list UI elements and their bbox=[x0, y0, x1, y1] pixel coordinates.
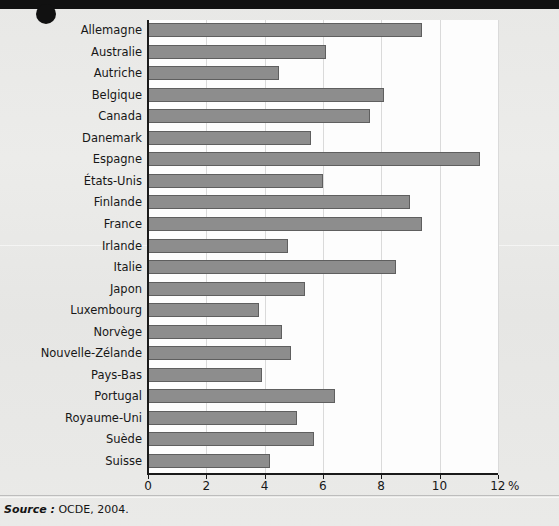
bar-norv-ge bbox=[148, 325, 282, 339]
bar-rect bbox=[148, 131, 311, 145]
category-label-italie: Italie bbox=[5, 261, 147, 274]
category-label-irlande: Irlande bbox=[5, 240, 147, 253]
bar-luxembourg bbox=[148, 303, 259, 317]
bar-rect bbox=[148, 368, 262, 382]
bar-suisse bbox=[148, 454, 270, 468]
bar-rect bbox=[148, 174, 323, 188]
bar-rect bbox=[148, 282, 305, 296]
bar-rect bbox=[148, 195, 410, 209]
category-label-finlande: Finlande bbox=[5, 196, 147, 209]
tick-label-8: 8 bbox=[369, 479, 393, 493]
gridline-12 bbox=[498, 20, 499, 473]
bar-finlande bbox=[148, 195, 410, 209]
source-note: Source : OCDE, 2004. bbox=[4, 503, 129, 516]
category-label-japon: Japon bbox=[5, 283, 147, 296]
bar-italie bbox=[148, 260, 396, 274]
bar-france bbox=[148, 217, 422, 231]
tick-label-0: 0 bbox=[136, 479, 160, 493]
category-label-luxembourg: Luxembourg bbox=[5, 304, 147, 317]
bar-rect bbox=[148, 217, 422, 231]
category-label-portugal: Portugal bbox=[5, 390, 147, 403]
bar-rect bbox=[148, 88, 384, 102]
x-axis-unit-label: % bbox=[508, 479, 519, 493]
tick-label-10: 10 bbox=[428, 479, 452, 493]
bar-rect bbox=[148, 432, 314, 446]
tick-label-4: 4 bbox=[253, 479, 277, 493]
category-label-autriche: Autriche bbox=[5, 67, 147, 80]
category-label-norv-ge: Norvège bbox=[5, 326, 147, 339]
footer-divider bbox=[0, 495, 559, 496]
bar-rect bbox=[148, 66, 279, 80]
bar-rect bbox=[148, 389, 335, 403]
bar-autriche bbox=[148, 66, 279, 80]
category-label-nouvelle-z-lande: Nouvelle-Zélande bbox=[5, 347, 147, 360]
source-label: Source : bbox=[4, 503, 55, 516]
bar-royaume-uni bbox=[148, 411, 297, 425]
bar-rect bbox=[148, 23, 422, 37]
bar-rect bbox=[148, 303, 259, 317]
bar-japon bbox=[148, 282, 305, 296]
tick-label-2: 2 bbox=[194, 479, 218, 493]
tick-label-12: 12 bbox=[486, 479, 510, 493]
gridline-10 bbox=[440, 20, 441, 473]
bar-canada bbox=[148, 109, 370, 123]
bar-rect bbox=[148, 45, 326, 59]
bar-rect bbox=[148, 325, 282, 339]
bar-rect bbox=[148, 152, 480, 166]
source-text: OCDE, 2004. bbox=[58, 503, 128, 516]
bar-rect bbox=[148, 239, 288, 253]
category-label-belgique: Belgique bbox=[5, 89, 147, 102]
tick-label-6: 6 bbox=[311, 479, 335, 493]
category-label-allemagne: Allemagne bbox=[5, 24, 147, 37]
bar-rect bbox=[148, 411, 297, 425]
bar-espagne bbox=[148, 152, 480, 166]
bar--tats-unis bbox=[148, 174, 323, 188]
y-axis-line bbox=[147, 20, 149, 474]
category-label-danemark: Danemark bbox=[5, 132, 147, 145]
category-axis-labels: AllemagneAustralieAutricheBelgiqueCanada… bbox=[0, 0, 147, 526]
category-label-su-de: Suède bbox=[5, 433, 147, 446]
category-label-suisse: Suisse bbox=[5, 455, 147, 468]
category-label-australie: Australie bbox=[5, 46, 147, 59]
bar-rect bbox=[148, 346, 291, 360]
bar-irlande bbox=[148, 239, 288, 253]
bar-danemark bbox=[148, 131, 311, 145]
category-label--tats-unis: États-Unis bbox=[5, 175, 147, 188]
bar-rect bbox=[148, 260, 396, 274]
bar-pays-bas bbox=[148, 368, 262, 382]
category-label-canada: Canada bbox=[5, 110, 147, 123]
category-label-france: France bbox=[5, 218, 147, 231]
bar-portugal bbox=[148, 389, 335, 403]
bar-nouvelle-z-lande bbox=[148, 346, 291, 360]
category-label-pays-bas: Pays-Bas bbox=[5, 369, 147, 382]
bar-allemagne bbox=[148, 23, 422, 37]
category-label-royaume-uni: Royaume-Uni bbox=[5, 412, 147, 425]
bar-australie bbox=[148, 45, 326, 59]
bar-rect bbox=[148, 109, 370, 123]
bar-su-de bbox=[148, 432, 314, 446]
bar-rect bbox=[148, 454, 270, 468]
category-label-espagne: Espagne bbox=[5, 153, 147, 166]
bar-belgique bbox=[148, 88, 384, 102]
